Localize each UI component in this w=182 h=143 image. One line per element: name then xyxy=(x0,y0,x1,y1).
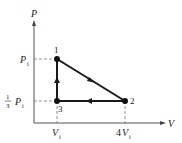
guide-lines xyxy=(34,59,125,123)
arrow-3-to-1-icon xyxy=(54,77,60,83)
svg-text:4: 4 xyxy=(116,127,121,138)
svg-text:i: i xyxy=(27,61,29,67)
point-1-label: 1 xyxy=(54,45,59,55)
point-1 xyxy=(54,56,60,62)
tick-label-v-i: V i xyxy=(52,127,61,140)
p-axis-arrow-icon xyxy=(32,20,36,26)
svg-text:1: 1 xyxy=(6,93,10,101)
arrow-2-to-3-icon xyxy=(86,98,92,104)
p-axis: P xyxy=(30,8,37,123)
tick-label-4-v-i: 4 V i xyxy=(116,127,131,140)
svg-text:P: P xyxy=(19,54,26,65)
v-axis-label: V xyxy=(168,118,176,129)
svg-text:P: P xyxy=(14,96,21,107)
p-axis-label: P xyxy=(30,8,37,19)
v-axis-arrow-icon xyxy=(160,121,166,125)
point-2-label: 2 xyxy=(130,96,135,106)
point-3-label: 3 xyxy=(58,104,63,114)
svg-text:i: i xyxy=(129,134,131,140)
svg-text:i: i xyxy=(59,134,61,140)
svg-text:3: 3 xyxy=(6,102,10,110)
point-2 xyxy=(122,98,128,104)
tick-label-p-i: P i xyxy=(19,54,29,67)
pv-diagram: P V 1 2 3 P i 1 3 P xyxy=(0,0,182,143)
direction-arrows xyxy=(54,77,96,104)
tick-label-one-third-p-i: 1 3 P i xyxy=(5,93,24,110)
svg-text:i: i xyxy=(22,103,24,109)
